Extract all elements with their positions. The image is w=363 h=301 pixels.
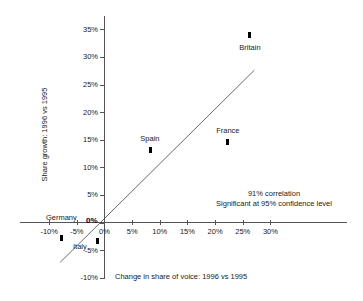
data-point-label: Britain [220, 43, 280, 52]
y-tick-mark [100, 140, 105, 141]
y-tick-label: 20% [68, 108, 98, 117]
statistics-annotation: 91% correlation Significant at 95% confi… [196, 189, 352, 209]
x-axis-title: Change in share of voice: 1996 vs 1995 [115, 272, 247, 281]
data-point-label: Italy [50, 242, 110, 251]
y-tick-mark [100, 278, 105, 279]
y-tick-label: 5% [68, 190, 98, 199]
data-point-marker[interactable] [60, 235, 63, 241]
data-point-label: Germany [31, 213, 91, 222]
x-tick-mark [215, 220, 216, 225]
data-point-label: France [198, 126, 258, 135]
y-tick-label: 15% [68, 135, 98, 144]
y-tick-label: -10% [68, 273, 98, 282]
y-tick-label: 30% [68, 52, 98, 61]
x-tick-mark [187, 220, 188, 225]
y-axis-line [104, 16, 105, 278]
y-tick-mark [100, 167, 105, 168]
x-tick-mark [243, 220, 244, 225]
y-tick-mark [100, 57, 105, 58]
annotation-line-correlation: 91% correlation [196, 189, 352, 199]
y-tick-mark [100, 29, 105, 30]
data-point-marker[interactable] [226, 139, 229, 145]
x-tick-mark [270, 220, 271, 225]
data-point-marker[interactable] [248, 32, 251, 38]
data-point-marker[interactable] [149, 147, 152, 153]
y-axis-title: Share growth: 1996 vs 1995 [40, 55, 49, 215]
y-tick-label: 10% [68, 163, 98, 172]
x-tick-mark [132, 220, 133, 225]
scatter-chart: 35%30%25%20%15%10%5%-5%-10% -10%-5%0%5%1… [0, 0, 363, 301]
x-tick-label: 30% [253, 227, 287, 236]
y-tick-mark [100, 223, 105, 224]
y-tick-label: 35% [68, 25, 98, 34]
data-point-label: Spain [120, 134, 180, 143]
x-axis-line [20, 222, 347, 223]
y-tick-mark [100, 112, 105, 113]
y-tick-mark [100, 195, 105, 196]
y-tick-label: 25% [68, 80, 98, 89]
x-tick-mark [160, 220, 161, 225]
trend-line [0, 0, 363, 301]
annotation-line-significance: Significant at 95% confidence level [196, 199, 352, 209]
y-tick-mark [100, 85, 105, 86]
